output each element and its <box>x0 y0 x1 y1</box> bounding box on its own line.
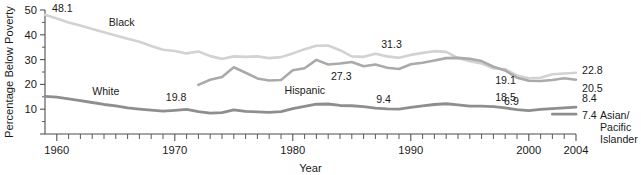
x-tick-label: 1960 <box>44 144 69 156</box>
data-label-48-1: 48.1 <box>52 2 73 14</box>
series-label-black: Black <box>109 16 136 28</box>
x-tick-label: 1990 <box>398 144 423 156</box>
data-label-27-3: 27.3 <box>331 70 352 82</box>
y-tick-label: 10 <box>25 103 37 115</box>
chart-svg: 1020304050196019701980199020002004Percen… <box>0 0 641 175</box>
data-label-31-3: 31.3 <box>381 38 402 50</box>
poverty-line-chart: 1020304050196019701980199020002004Percen… <box>0 0 641 175</box>
labels-layer: BlackHispanicWhite48.131.319.122.819.827… <box>52 2 638 145</box>
data-label-6-9: 6.9 <box>504 95 519 107</box>
data-label-9-4: 9.4 <box>376 93 391 105</box>
x-axis-title: Year <box>299 162 322 174</box>
x-tick-label: 2000 <box>516 144 541 156</box>
data-label-7-4: 7.4 <box>582 109 597 121</box>
series-label-white: White <box>92 85 119 97</box>
legend-text-asian: Asian/ <box>600 109 629 121</box>
data-label-22-8: 22.8 <box>582 64 603 76</box>
y-axis-title: Percentage Below Poverty <box>3 6 15 138</box>
x-tick-label: 1970 <box>162 144 187 156</box>
x-tick-label: 1980 <box>280 144 305 156</box>
y-tick-label: 50 <box>25 4 37 16</box>
series-label-hispanic: Hispanic <box>285 84 326 96</box>
legend-text-pacific: Pacific <box>600 121 632 133</box>
legend-text-islander: Islander <box>600 133 638 145</box>
data-label-19-8: 19.8 <box>166 91 187 103</box>
series-line-hispanic <box>198 58 576 85</box>
x-tick-label: 2004 <box>564 144 589 156</box>
data-label-8-4: 8.4 <box>582 92 597 104</box>
y-tick-label: 40 <box>25 29 37 41</box>
data-label-19-1: 19.1 <box>495 74 516 86</box>
y-tick-label: 20 <box>25 78 37 90</box>
y-tick-label: 30 <box>25 54 37 66</box>
